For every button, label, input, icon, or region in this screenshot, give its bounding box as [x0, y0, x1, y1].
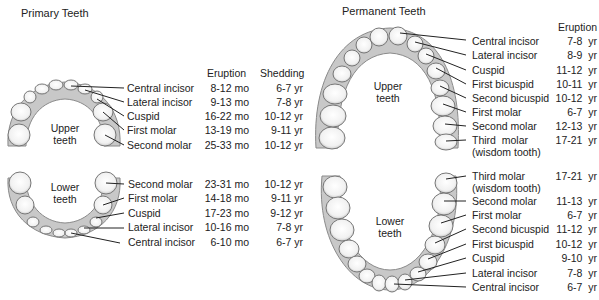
primary-upper-shedding-0: 6-7 yr: [258, 82, 303, 94]
permanent-upper-eruption-6: 12-13 yr: [545, 120, 597, 132]
primary-upper-eruption-1: 9-13 mo: [196, 96, 249, 108]
primary-lower-jaw-label: Lower teeth: [43, 181, 87, 205]
permanent-upper-tooth-0: Central incisor: [472, 35, 539, 47]
permanent-teeth-title: Permanent Teeth: [342, 5, 426, 17]
permanent-lower-eruption-7: 6-7 yr: [545, 281, 597, 293]
primary-lower-tooth-3: Lateral incisor: [128, 221, 193, 233]
primary-lower-shedding-2: 9-12 yr: [258, 207, 303, 219]
permanent-lower-tooth-0-note: (wisdom tooth): [472, 182, 541, 194]
permanent-upper-tooth-4: Second bicuspid: [472, 92, 549, 104]
primary-lower-eruption-0: 23-31 mo: [196, 178, 249, 190]
primary-upper-tooth-2: Cuspid: [127, 110, 160, 122]
permanent-lower-eruption-1: 11-13 yr: [545, 195, 597, 207]
permanent-lower-tooth-3: Second bicuspid: [472, 223, 549, 235]
permanent-lower-tooth-0: Third molar: [472, 170, 525, 182]
primary-upper-tooth-1: Lateral incisor: [127, 96, 192, 108]
permanent-upper-tooth-7-note: (wisdom tooth): [472, 146, 541, 158]
primary-upper-eruption-3: 13-19 mo: [196, 124, 249, 136]
primary-upper-eruption-0: 8-12 mo: [196, 82, 249, 94]
primary-upper-tooth-3: First molar: [127, 124, 177, 136]
permanent-upper-tooth-5: First molar: [472, 106, 522, 118]
permanent-upper-eruption-2: 11-12 yr: [545, 64, 597, 76]
permanent-upper-tooth-3: First bicuspid: [472, 78, 534, 90]
primary-lower-shedding-4: 6-7 yr: [258, 236, 303, 248]
primary-eruption-header: Eruption: [207, 67, 246, 79]
permanent-upper-tooth-1: Lateral incisor: [472, 49, 537, 61]
permanent-lower-eruption-4: 10-12 yr: [545, 238, 597, 250]
permanent-upper-eruption-7: 17-21 yr: [545, 134, 597, 146]
permanent-upper-eruption-0: 7-8 yr: [545, 35, 597, 47]
permanent-upper-tooth-6: Second molar: [472, 120, 537, 132]
primary-upper-tooth-0: Central incisor: [127, 82, 194, 94]
primary-lower-shedding-1: 9-11 yr: [258, 192, 303, 204]
permanent-upper-eruption-5: 6-7 yr: [545, 106, 597, 118]
permanent-lower-eruption-5: 9-10 yr: [545, 252, 597, 264]
primary-lower-eruption-4: 6-10 mo: [196, 236, 249, 248]
primary-lower-tooth-1: First molar: [128, 192, 178, 204]
permanent-upper-eruption-1: 8-9 yr: [545, 49, 597, 61]
primary-teeth-title: Primary Teeth: [21, 7, 89, 19]
primary-lower-shedding-0: 10-12 yr: [258, 178, 303, 190]
permanent-upper-jaw-label: Upper teeth: [366, 80, 410, 104]
permanent-lower-tooth-2: First molar: [472, 209, 522, 221]
primary-lower-eruption-2: 17-23 mo: [196, 207, 249, 219]
primary-upper-shedding-4: 10-12 yr: [258, 139, 303, 151]
primary-upper-shedding-2: 10-12 yr: [258, 110, 303, 122]
primary-upper-shedding-1: 7-8 yr: [258, 96, 303, 108]
primary-lower-tooth-0: Second molar: [128, 178, 193, 190]
primary-lower-eruption-3: 10-16 mo: [196, 221, 249, 233]
permanent-lower-eruption-6: 7-8 yr: [545, 267, 597, 279]
permanent-upper-tooth-2: Cuspid: [472, 64, 505, 76]
permanent-lower-eruption-3: 11-12 yr: [545, 223, 597, 235]
primary-lower-eruption-1: 14-18 mo: [196, 192, 249, 204]
permanent-lower-eruption-0: 17-21 yr: [545, 170, 597, 182]
permanent-upper-tooth-7: Third molar: [472, 134, 528, 146]
primary-lower-tooth-2: Cuspid: [128, 207, 161, 219]
permanent-upper-eruption-3: 10-11 yr: [545, 78, 597, 90]
primary-upper-jaw-label: Upper teeth: [43, 122, 87, 146]
primary-lower-shedding-3: 7-8 yr: [258, 221, 303, 233]
permanent-lower-tooth-6: Lateral incisor: [472, 267, 537, 279]
permanent-lower-tooth-7: Central incisor: [472, 281, 539, 293]
permanent-upper-eruption-4: 10-12 yr: [545, 92, 597, 104]
primary-upper-shedding-3: 9-11 yr: [258, 124, 303, 136]
primary-shedding-header: Shedding: [260, 67, 304, 79]
primary-upper-tooth-4: Second molar: [127, 139, 192, 151]
permanent-eruption-header: Eruption: [558, 21, 597, 33]
permanent-lower-tooth-5: Cuspid: [472, 252, 505, 264]
primary-upper-eruption-4: 25-33 mo: [196, 139, 249, 151]
permanent-lower-jaw-label: Lower teeth: [368, 215, 412, 239]
permanent-lower-eruption-2: 6-7 yr: [545, 209, 597, 221]
permanent-lower-tooth-1: Second molar: [472, 195, 537, 207]
primary-lower-tooth-4: Central incisor: [128, 236, 195, 248]
permanent-lower-tooth-4: First bicuspid: [472, 238, 534, 250]
primary-upper-eruption-2: 16-22 mo: [196, 110, 249, 122]
